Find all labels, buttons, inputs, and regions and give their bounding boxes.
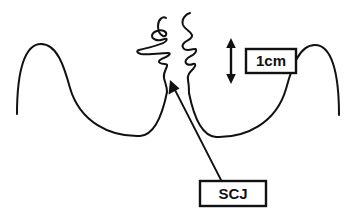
scj-label-box: SCJ [200,181,266,206]
diagram-canvas: 1cm SCJ [0,0,356,216]
scj-label-text: SCJ [218,185,247,202]
scj-anatomical-diagram: 1cm SCJ [0,0,356,216]
diagram-background [0,0,356,216]
scale-label-box: 1cm [246,49,296,73]
scale-label-text: 1cm [256,52,286,69]
